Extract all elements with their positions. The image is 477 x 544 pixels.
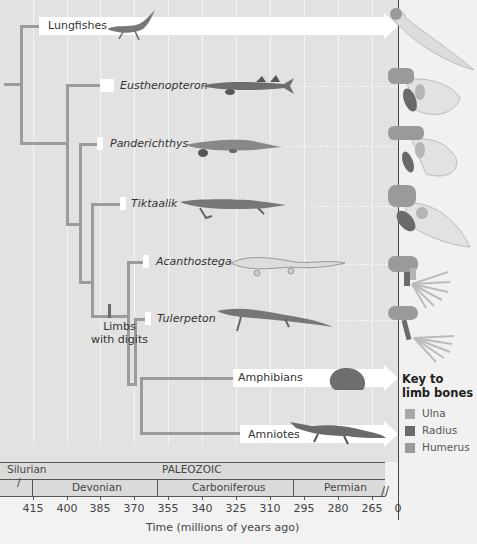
lungfish-illustration — [105, 6, 160, 42]
taxon-label-tiktaalik: Tiktaalik — [131, 197, 177, 210]
eusthenopteron-illustration — [200, 74, 296, 102]
tick-label: 385 — [90, 502, 111, 515]
limbs-annotation: Limbs with digits — [91, 320, 148, 346]
tick-label: 310 — [260, 502, 281, 515]
dashed-connector — [310, 206, 398, 207]
period-carboniferous: Carboniferous — [192, 481, 266, 493]
humerus-swatch — [405, 443, 415, 453]
tick-label: 415 — [23, 502, 44, 515]
period-separator — [293, 479, 294, 496]
tick-label: 265 — [362, 502, 383, 515]
acanthostega-illustration — [229, 253, 347, 279]
period-separator — [32, 479, 33, 496]
tick-label: 355 — [158, 502, 179, 515]
tulerpeton-limb-bones — [386, 304, 458, 364]
taxon-label-lungfishes: Lungfishes — [48, 19, 107, 32]
tulerpeton-illustration — [215, 305, 335, 339]
taxon-marker — [100, 79, 114, 92]
taxon-marker — [143, 255, 149, 268]
axis-label: Time (millions of years ago) — [146, 521, 299, 534]
limbs-with-digits-marker — [108, 304, 111, 318]
frog-illustration — [327, 364, 369, 392]
key-title-line2: limb bones — [402, 386, 474, 400]
limb-bones-key: Key to limb bones Ulna Radius Humerus — [402, 372, 474, 462]
gridline — [100, 0, 101, 445]
dashed-connector — [285, 146, 398, 147]
tick-label: 295 — [294, 502, 315, 515]
radius-swatch — [405, 426, 415, 436]
taxon-label-amphibians: Amphibians — [238, 371, 303, 384]
ulna-swatch — [405, 409, 415, 419]
taxon-marker — [97, 137, 103, 150]
period-separator — [157, 479, 158, 496]
tick-label: 340 — [192, 502, 213, 515]
key-title-line1: Key to — [402, 372, 474, 386]
tick-label: 370 — [124, 502, 145, 515]
panderichthys-fin-bones — [386, 124, 466, 184]
tiktaalik-illustration — [178, 194, 288, 222]
tick-label: 400 — [57, 502, 78, 515]
tick-label: 0 — [395, 502, 402, 515]
taxon-label-acanthostega: Acanthostega — [156, 255, 232, 268]
eusthenopteron-fin-bones — [386, 66, 466, 124]
taxon-label-eusthenopteron: Eusthenopteron — [120, 79, 208, 92]
acanthostega-limb-bones — [386, 254, 456, 309]
axis-break-mark: // — [381, 484, 389, 498]
key-label-ulna: Ulna — [422, 407, 446, 419]
taxon-marker — [120, 197, 126, 210]
lungfish-fin-bones — [386, 4, 476, 74]
taxon-label-tulerpeton: Tulerpeton — [157, 312, 216, 325]
period-permian: Permian — [324, 481, 367, 493]
tick-label: 280 — [328, 502, 349, 515]
key-label-radius: Radius — [422, 424, 457, 436]
silurian-boundary-mark: / — [17, 476, 21, 489]
taxon-label-panderichthys: Panderichthys — [110, 137, 188, 150]
taxon-marker — [145, 312, 151, 325]
tick-label: 325 — [226, 502, 247, 515]
dashed-connector — [300, 86, 398, 87]
key-label-humerus: Humerus — [422, 441, 470, 453]
period-silurian: Silurian — [7, 463, 46, 475]
crocodile-illustration — [288, 418, 388, 446]
era-paleozoic: PALEOZOIC — [162, 463, 221, 475]
period-devonian: Devonian — [72, 481, 122, 493]
phylogeny-plot-area — [0, 0, 398, 462]
tiktaalik-fin-bones — [386, 183, 472, 255]
gridline — [33, 0, 34, 445]
panderichthys-illustration — [183, 133, 283, 161]
